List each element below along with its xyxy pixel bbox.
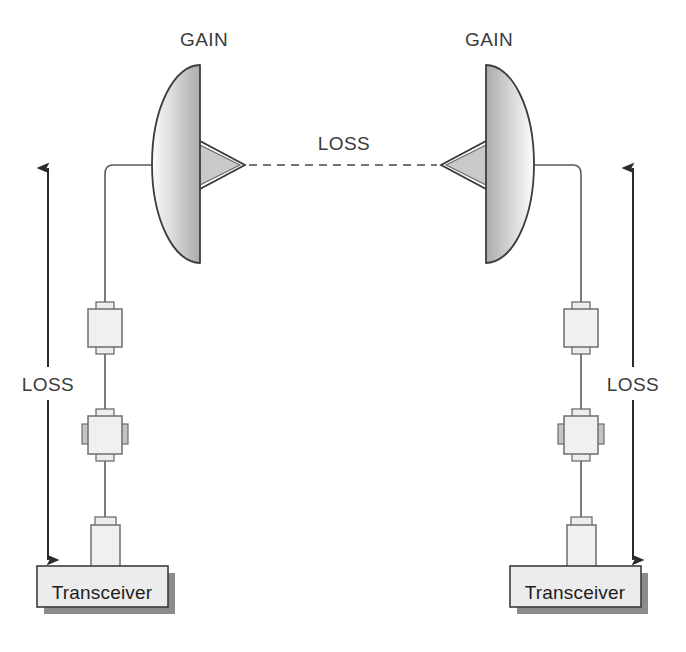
loss-label-right: LOSS (607, 374, 659, 395)
left-loss-indicator: LOSS (22, 168, 74, 560)
path-loss-label-group: LOSS (306, 131, 382, 157)
left-transceiver: Transceiver (37, 566, 175, 614)
left-antenna-assembly: GAIN (22, 29, 245, 614)
right-transceiver: Transceiver (510, 566, 648, 614)
loss-label-path: LOSS (318, 133, 370, 154)
left-dish-reflector (152, 65, 200, 263)
right-antenna-assembly: GAIN Transceiver (441, 29, 659, 614)
left-transceiver-label: Transceiver (52, 582, 153, 603)
right-transceiver-port (567, 517, 596, 567)
right-loss-indicator: LOSS (607, 168, 659, 560)
diagram-canvas: GAIN (0, 0, 686, 652)
right-waveguide-connector-upper (564, 302, 598, 354)
right-transceiver-label: Transceiver (525, 582, 626, 603)
right-waveguide-run (534, 165, 581, 560)
left-transceiver-port (91, 517, 120, 567)
left-waveguide-connector-upper (88, 302, 122, 354)
loss-label-left: LOSS (22, 374, 74, 395)
link-budget-diagram: GAIN (0, 0, 686, 652)
left-feed-horn (200, 141, 245, 189)
gain-label-right: GAIN (465, 29, 513, 50)
left-waveguide-run (105, 165, 152, 560)
left-waveguide-coupler-lower (82, 409, 128, 461)
right-waveguide-coupler-lower (558, 409, 604, 461)
gain-label-left: GAIN (180, 29, 228, 50)
right-dish-reflector (486, 65, 534, 263)
right-feed-horn (441, 141, 486, 189)
